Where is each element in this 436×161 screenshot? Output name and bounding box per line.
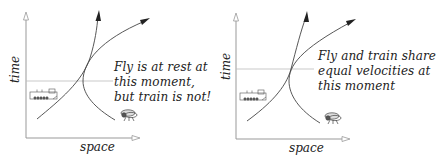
time-axis [24,12,29,138]
caption-line: Fly is at rest at [114,60,211,75]
caption-line: but train is not! [114,90,211,105]
caption-fly-at-rest: Fly is at rest at this moment, but train… [114,60,211,105]
caption-line: Fly and train share [318,49,436,64]
train-icon [30,89,57,99]
fly-icon [325,113,341,124]
space-axis-label: space [289,142,324,154]
train-worldline [247,11,309,121]
caption-line: this moment, [114,75,211,90]
time-axis-label: time [220,53,232,80]
time-axis-label: time [9,56,21,83]
train-icon [240,90,266,100]
space-axis-label: space [80,141,115,153]
panel-fly-at-rest: time space Fly is at rest at this moment… [0,0,214,161]
fly-icon [121,110,137,121]
time-axis [234,13,239,139]
train-worldline [37,10,101,119]
caption-line: this moment [318,79,436,94]
panel-equal-velocities: time space Fly and train share equal vel… [214,0,429,161]
caption-equal-velocities: Fly and train share equal velocities at … [318,49,436,94]
caption-line: equal velocities at [318,64,436,79]
